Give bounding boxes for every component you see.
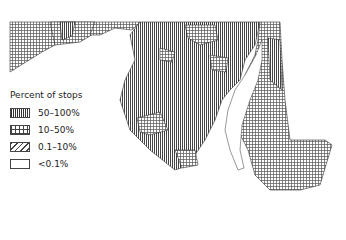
legend-title: Percent of stops xyxy=(10,90,82,100)
blank-swatch-icon xyxy=(10,159,30,169)
region-central-grid-e xyxy=(210,55,228,72)
grid-swatch-icon xyxy=(10,125,30,135)
legend-item-50-100: 50–100% xyxy=(10,105,82,120)
vertical-lines-swatch-icon xyxy=(10,108,30,118)
diagonal-lines-swatch-icon xyxy=(10,142,30,152)
legend-item-under-0.1: <0.1% xyxy=(10,156,82,171)
legend: Percent of stops 50–100% 10–50% 0.1–10% … xyxy=(10,90,82,173)
legend-item-10-50: 10–50% xyxy=(10,122,82,137)
legend-item-0.1-10: 0.1–10% xyxy=(10,139,82,154)
